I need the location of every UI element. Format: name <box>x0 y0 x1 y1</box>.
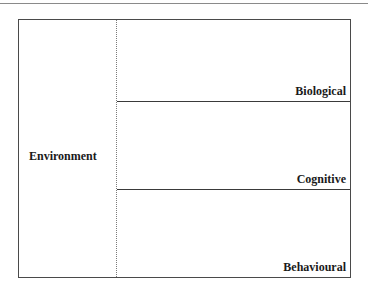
cognitive-label: Cognitive <box>297 172 346 187</box>
behavioural-label: Behavioural <box>283 260 346 275</box>
environment-label: Environment <box>29 149 97 164</box>
biological-label: Biological <box>295 84 346 99</box>
top-rule <box>0 3 368 4</box>
cognitive-divider <box>117 189 350 190</box>
diagram-frame: Environment Biological Cognitive Behavio… <box>18 19 351 278</box>
biological-divider <box>117 101 350 102</box>
environment-divider <box>116 20 117 277</box>
